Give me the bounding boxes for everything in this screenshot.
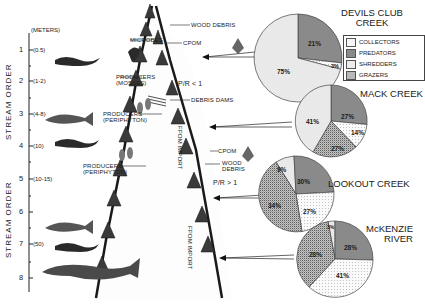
pct-lookout-collectors: 27%	[303, 208, 316, 215]
tick-width-5: (10-15)	[33, 176, 52, 182]
pct-mack-grazers: 27%	[331, 145, 344, 152]
label-cpom-2: CPOM	[218, 148, 236, 154]
swatch-predators	[346, 49, 356, 58]
site-lookout-creek: LOOKOUT CREEK	[328, 179, 410, 189]
leaf-2-icon	[242, 146, 254, 162]
site-devils-line2: CREEK	[322, 18, 422, 28]
tick-order-8: 8	[19, 273, 23, 282]
river-channel	[95, 4, 232, 300]
label-wood-debris-1: WOOD DEBRIS	[191, 22, 235, 28]
tick-order-3: 3	[19, 109, 23, 118]
tick-order-7: 7	[19, 239, 23, 248]
stream-order-axis	[29, 33, 33, 292]
trout-1-icon	[45, 112, 93, 126]
pct-mack-shredders: 41%	[306, 118, 319, 125]
site-mckenzie-line2: RIVER	[366, 234, 413, 244]
pie-mckenzie-river	[297, 221, 373, 297]
site-devils-club-creek: DEVILS CLUB CREEK	[322, 8, 422, 28]
tick-width-2: (1-2)	[33, 78, 46, 84]
swatch-shredders	[346, 60, 356, 69]
legend: COLLECTORS PREDATORS SHREDDERS GRAZERS	[343, 35, 425, 81]
tick-order-4: 4	[19, 141, 23, 150]
label-producers-mosses-2: (MOSSES)	[116, 80, 146, 86]
tick-width-3: (4-8)	[33, 111, 46, 117]
label-producers-periphyton-b2: (PERIPHYTON)	[83, 169, 127, 175]
pct-lookout-shredders: 9%	[277, 166, 286, 173]
tick-order-6: 6	[19, 207, 23, 216]
label-microbes: MICROBES	[130, 37, 163, 43]
leaf-1-icon	[232, 38, 244, 54]
site-mack-creek: MACK CREEK	[360, 89, 423, 99]
salamander-3-icon	[55, 243, 99, 252]
axis-units-label: (METERS)	[31, 27, 60, 33]
trout-2-icon	[45, 220, 93, 234]
pct-mckenzie-shredders: 3%	[327, 224, 334, 230]
pct-mack-collectors: 14%	[351, 129, 364, 136]
legend-item-collectors: COLLECTORS	[346, 37, 422, 47]
legend-item-shredders: SHREDDERS	[346, 59, 422, 69]
swatch-collectors	[346, 38, 356, 47]
pct-mckenzie-grazers: 28%	[309, 251, 322, 258]
tick-order-5: 5	[19, 174, 23, 183]
pct-mack-predators: 27%	[341, 113, 354, 120]
salamander-1-icon	[55, 57, 100, 66]
pct-devils-collectors: 3%	[331, 63, 339, 69]
axis-title-lower: STREAM ORDER	[4, 182, 13, 258]
label-debris-dams: DEBRIS DAMS	[191, 97, 233, 103]
pct-devils-shredders: 75%	[277, 68, 290, 75]
swatch-grazers	[346, 71, 356, 80]
pie-lookout-creek	[259, 156, 334, 232]
site-mckenzie-river: McKENZIE RIVER	[366, 224, 413, 244]
pct-mckenzie-predators: 28%	[344, 244, 357, 251]
label-wood-debris-2b: DEBRIS	[222, 166, 245, 172]
tick-order-2: 2	[19, 76, 23, 85]
tick-order-1: 1	[19, 45, 23, 54]
label-fpom-import-1: FPOM IMPORT	[177, 126, 183, 169]
label-pr-less-than-1: P/R < 1	[178, 81, 202, 87]
label-fpom-import-2: FPOM IMPORT	[187, 226, 193, 269]
axis-title-upper: STREAM ORDER	[4, 64, 13, 140]
tick-width-1: (0.5)	[33, 47, 45, 53]
label-producers-periphyton-a2: (PERIPHYTON)	[103, 117, 147, 123]
pct-lookout-predators: 30%	[297, 178, 310, 185]
pct-mckenzie-collectors: 41%	[336, 272, 349, 279]
tick-width-7: (50)	[33, 241, 44, 247]
label-cpom-1: CPOM	[183, 40, 201, 46]
salamander-2-icon	[55, 139, 99, 148]
legend-item-grazers: GRAZERS	[346, 70, 422, 80]
tick-width-4: (10)	[33, 143, 44, 149]
pct-lookout-grazers: 34%	[268, 202, 281, 209]
legend-item-predators: PREDATORS	[346, 48, 422, 58]
pct-devils-predators: 21%	[308, 40, 321, 47]
label-pr-greater-than-1: P/R > 1	[213, 180, 237, 186]
